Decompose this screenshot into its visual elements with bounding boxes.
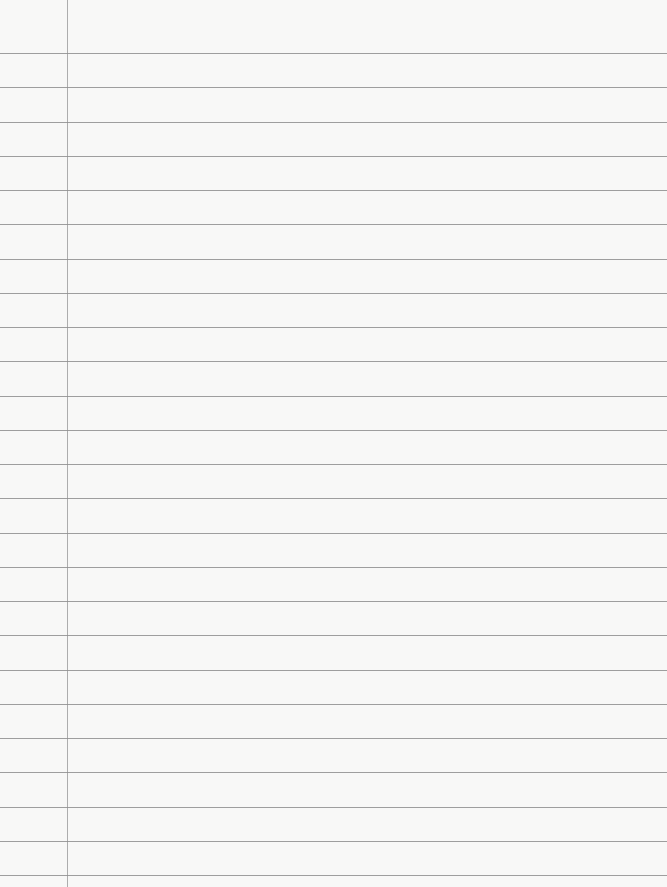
ruled-line [0, 841, 667, 842]
ruled-line [0, 670, 667, 671]
ruled-line [0, 430, 667, 431]
ruled-line [0, 361, 667, 362]
margin-line [67, 0, 68, 887]
ruled-line [0, 190, 667, 191]
ruled-line [0, 259, 667, 260]
ruled-line [0, 875, 667, 876]
lined-paper [0, 0, 667, 887]
ruled-line [0, 327, 667, 328]
ruled-line [0, 738, 667, 739]
ruled-line [0, 396, 667, 397]
ruled-line [0, 601, 667, 602]
ruled-line [0, 772, 667, 773]
ruled-line [0, 87, 667, 88]
ruled-line [0, 533, 667, 534]
ruled-line [0, 567, 667, 568]
ruled-line [0, 464, 667, 465]
ruled-line [0, 498, 667, 499]
ruled-line [0, 224, 667, 225]
ruled-line [0, 156, 667, 157]
ruled-line [0, 53, 667, 54]
ruled-line [0, 635, 667, 636]
ruled-line [0, 807, 667, 808]
ruled-line [0, 293, 667, 294]
ruled-line [0, 122, 667, 123]
ruled-line [0, 704, 667, 705]
